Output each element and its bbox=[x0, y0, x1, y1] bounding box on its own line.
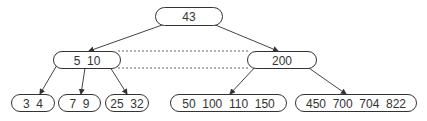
edge-left-internal-to-leaf-1 bbox=[40, 65, 57, 94]
tree-node-leaf-4: 50 100 110 150 bbox=[171, 95, 287, 112]
tree-node-leaf-2: 7 9 bbox=[59, 95, 101, 112]
node-label: 450 700 704 822 bbox=[306, 97, 406, 111]
edge-left-internal-to-leaf-3 bbox=[110, 67, 127, 94]
edge-right-internal-to-leaf-5 bbox=[306, 66, 346, 94]
tree-node-leaf-3: 25 32 bbox=[106, 95, 149, 112]
edge-root-to-right-internal bbox=[213, 24, 278, 51]
edge-root-to-left-internal bbox=[89, 24, 165, 51]
node-label: 50 100 110 150 bbox=[182, 97, 275, 111]
b-tree-diagram: 435 102003 47 925 3250 100 110 150450 70… bbox=[0, 0, 427, 121]
node-label: 3 4 bbox=[23, 97, 43, 111]
nodes: 435 102003 47 925 3250 100 110 150450 70… bbox=[12, 8, 417, 112]
node-label: 5 10 bbox=[74, 54, 101, 68]
node-label: 43 bbox=[182, 10, 196, 24]
tree-node-root: 43 bbox=[156, 8, 223, 26]
node-label: 25 32 bbox=[110, 97, 144, 111]
sibling-links bbox=[118, 51, 250, 68]
node-label: 200 bbox=[272, 54, 292, 68]
tree-node-left-internal: 5 10 bbox=[54, 52, 121, 69]
tree-node-leaf-1: 3 4 bbox=[12, 95, 55, 112]
edge-left-internal-to-leaf-2 bbox=[81, 68, 85, 94]
tree-node-right-internal: 200 bbox=[248, 52, 317, 69]
tree-svg: 435 102003 47 925 3250 100 110 150450 70… bbox=[0, 0, 427, 121]
node-label: 7 9 bbox=[69, 97, 89, 111]
tree-node-leaf-5: 450 700 704 822 bbox=[296, 95, 417, 112]
edge-right-internal-to-leaf-4 bbox=[230, 66, 256, 94]
